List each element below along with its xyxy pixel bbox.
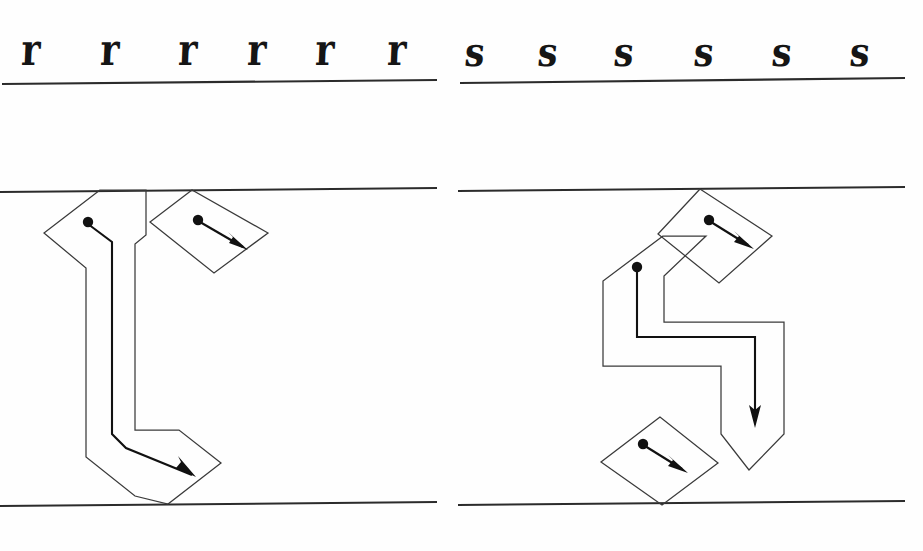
r-stem-direction-arrow	[88, 224, 192, 475]
s-spine-direction-arrow	[637, 270, 755, 416]
s-bottom-arrowhead	[668, 455, 688, 473]
s-spine-stroke-outline	[603, 236, 784, 470]
baseline-right	[458, 501, 905, 505]
r-stem-arrowhead	[176, 456, 196, 477]
specimen-baseline-right	[460, 78, 905, 83]
diagram-canvas	[0, 0, 923, 551]
letter-r-construction	[44, 190, 268, 504]
r-arm-arrowhead	[228, 232, 248, 250]
s-top-arrowhead	[734, 231, 754, 249]
s-bottom-nib-parallelogram	[601, 417, 718, 505]
waistline-right	[458, 187, 905, 191]
waistline-left	[0, 188, 437, 192]
r-arm-nib-parallelogram	[150, 190, 268, 273]
r-stem-stroke-outline	[44, 190, 221, 504]
calligraphy-worksheet: r r r r r r s s s s s s	[0, 0, 923, 551]
baseline-left	[0, 502, 437, 506]
letter-s-construction	[601, 189, 784, 505]
specimen-baseline-left	[2, 80, 437, 84]
